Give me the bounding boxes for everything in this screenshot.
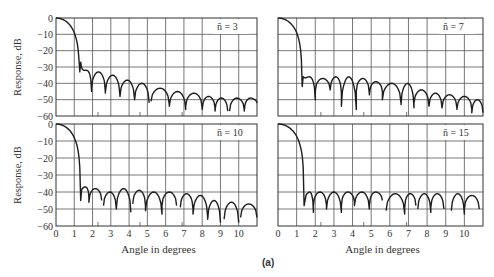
x-axis-label: Angle in degrees [121, 243, 196, 255]
y-tick-label: 0 [48, 119, 53, 130]
x-tick-label: 3 [331, 228, 336, 239]
x-tick-label: 1 [72, 228, 77, 239]
panel-bottom-right: n̄ = 15012345678910Angle in degrees [276, 124, 484, 255]
y-tick-label: −30 [37, 62, 53, 73]
x-tick-label: 1 [294, 228, 299, 239]
x-tick-label: 10 [459, 228, 469, 239]
y-tick-label: −20 [37, 153, 53, 164]
svg-text:n̄ = 10: n̄ = 10 [217, 127, 243, 138]
x-tick-label: 8 [200, 228, 205, 239]
y-tick-label: −20 [37, 45, 53, 56]
y-tick-label: −30 [37, 170, 53, 181]
x-tick-label: 0 [276, 228, 281, 239]
x-tick-label: 7 [181, 228, 186, 239]
x-tick-label: 8 [425, 228, 430, 239]
panel-top-right: n̄ = 7 [278, 18, 483, 116]
x-tick-label: 2 [90, 228, 95, 239]
y-axis-label: Response, dB [12, 146, 23, 204]
x-tick-label: 4 [127, 228, 132, 239]
x-tick-label: 6 [387, 228, 392, 239]
panel-bottom-left: n̄ = 100−10−20−30−40−50−60012345678910Re… [12, 119, 257, 256]
y-axis-label: Response, dB [12, 38, 23, 96]
svg-text:n̄ = 3: n̄ = 3 [217, 21, 238, 32]
x-tick-label: 5 [145, 228, 150, 239]
x-tick-label: 5 [369, 228, 374, 239]
y-tick-label: −50 [37, 94, 53, 105]
y-tick-label: −10 [37, 29, 53, 40]
y-tick-label: 0 [48, 13, 53, 24]
nbar-annotation: n̄ = 15 [439, 125, 475, 140]
figure-caption: (a) [262, 257, 274, 268]
nbar-annotation: n̄ = 3 [213, 19, 249, 34]
figure: n̄ = 30−10−20−30−40−50−60Response, dBn̄ … [0, 0, 494, 277]
x-tick-label: 4 [350, 228, 355, 239]
y-tick-label: −10 [37, 136, 53, 147]
x-tick-label: 9 [443, 228, 448, 239]
panel-top-left: n̄ = 30−10−20−30−40−50−60Response, dB [12, 13, 257, 122]
y-tick-label: −50 [37, 204, 53, 215]
x-axis-label: Angle in degrees [345, 243, 420, 255]
x-tick-label: 10 [234, 228, 244, 239]
x-tick-label: 6 [163, 228, 168, 239]
nbar-annotation: n̄ = 7 [439, 19, 475, 34]
y-tick-label: −40 [37, 187, 53, 198]
x-tick-label: 7 [406, 228, 411, 239]
svg-text:n̄ = 7: n̄ = 7 [443, 21, 464, 32]
y-tick-label: −40 [37, 78, 53, 89]
x-tick-label: 9 [218, 228, 223, 239]
svg-text:n̄ = 15: n̄ = 15 [443, 127, 469, 138]
nbar-annotation: n̄ = 10 [213, 125, 249, 140]
x-tick-label: 0 [54, 228, 59, 239]
y-tick-label: −60 [37, 221, 53, 232]
x-tick-label: 2 [313, 228, 318, 239]
x-tick-label: 3 [108, 228, 113, 239]
